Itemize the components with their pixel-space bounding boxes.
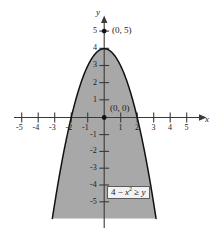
point-0-5-marker <box>102 29 107 34</box>
y-tick-label-neg4: -4 <box>90 181 97 189</box>
y-tick-label-5: 5 <box>93 27 97 35</box>
ineq-prefix: 4 <box>111 187 118 197</box>
graph-figure: x y -5 -4 -3 -2 -1 1 2 3 4 5 5 4 3 2 1 -… <box>0 0 224 232</box>
point-label-0-5: (0, 5) <box>112 26 132 35</box>
x-tick-label-1: 1 <box>119 124 123 132</box>
y-tick-label-1: 1 <box>93 96 97 104</box>
ineq-rhs: y <box>142 187 146 197</box>
y-tick-label-neg1: -1 <box>90 131 97 139</box>
x-axis-label: x <box>205 115 209 124</box>
origin-point-marker <box>102 115 107 120</box>
y-tick-label-4: 4 <box>93 44 97 52</box>
y-tick-label-neg3: -3 <box>90 164 97 172</box>
x-tick-label-neg4: -4 <box>33 124 40 132</box>
x-tick-label-neg5: -5 <box>16 124 23 132</box>
ineq-relation: ≥ <box>132 187 141 197</box>
y-tick-label-3: 3 <box>93 61 97 69</box>
y-tick-label-neg5: -5 <box>90 198 97 206</box>
x-tick-label-5: 5 <box>185 124 189 132</box>
x-tick-label-3: 3 <box>152 124 156 132</box>
x-tick-label-2: 2 <box>135 124 139 132</box>
x-tick-label-neg3: -3 <box>49 124 56 132</box>
ineq-minus: − <box>118 187 125 197</box>
inequality-label: 4 − x2 ≥ y <box>107 186 150 199</box>
y-axis-label: y <box>96 8 100 17</box>
x-tick-label-neg2: -2 <box>66 124 73 132</box>
y-tick-label-neg2: -2 <box>90 147 97 155</box>
x-tick-label-4: 4 <box>168 124 172 132</box>
x-tick-label-neg1: -1 <box>82 124 89 132</box>
y-tick-label-2: 2 <box>93 79 97 87</box>
point-label-0-0: (0, 0) <box>110 104 130 113</box>
